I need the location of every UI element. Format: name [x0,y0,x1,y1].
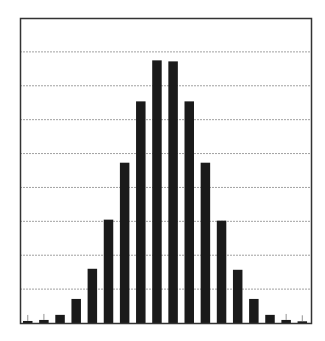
bar-1 [23,321,33,323]
bar-7 [120,163,129,323]
bar-16 [265,315,275,323]
bars [23,60,307,323]
figure-caption [55,334,290,341]
bar-8 [136,101,146,323]
bar-15 [249,299,259,323]
bar-9 [152,60,162,323]
bar-3 [55,315,65,323]
bar-13 [217,221,227,323]
bar-14 [233,270,243,323]
bar-17 [281,320,291,323]
bar-5 [88,269,98,323]
bar-10 [168,61,178,323]
bar-chart [0,0,325,341]
bar-12 [201,163,211,323]
bar-18 [298,321,308,323]
gridlines [20,52,311,289]
bar-2 [39,320,49,323]
bar-6 [104,220,114,323]
bar-11 [185,101,195,323]
bar-4 [71,299,81,323]
plot-frame [21,19,312,324]
